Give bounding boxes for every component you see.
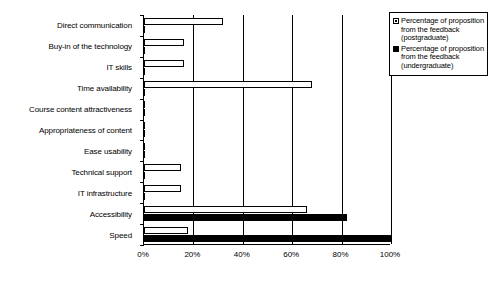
legend-item-postgraduate: Percentage of proposition from the feedb… xyxy=(393,17,484,43)
x-axis-tick-label: 20% xyxy=(184,250,200,260)
y-axis-label: IT infrastructure xyxy=(78,188,132,197)
bar-postgraduate xyxy=(144,101,145,108)
y-axis-label: Buy-in of the technology xyxy=(49,42,132,51)
bar-undergraduate xyxy=(144,26,145,33)
x-axis-tick-label: 80% xyxy=(333,250,349,260)
bar-row xyxy=(144,99,390,120)
bar-postgraduate xyxy=(144,164,181,171)
bar-row xyxy=(144,57,390,78)
bar-postgraduate xyxy=(144,39,184,46)
black-square-icon xyxy=(393,46,399,52)
x-axis-tick-labels: 0%20%40%60%80%100% xyxy=(0,250,497,264)
legend-item-undergraduate: Percentage of proposition from the feedb… xyxy=(393,45,484,71)
bar-postgraduate xyxy=(144,206,307,213)
bar-undergraduate xyxy=(144,235,391,242)
bar-postgraduate xyxy=(144,81,312,88)
y-axis-label: IT skills xyxy=(106,63,132,72)
white-square-icon xyxy=(393,18,399,24)
bar-postgraduate xyxy=(144,227,188,234)
bar-undergraduate xyxy=(144,214,347,221)
bar-row xyxy=(144,140,390,161)
bar-row xyxy=(144,182,390,203)
bar-undergraduate xyxy=(144,89,145,96)
bar-undergraduate xyxy=(144,109,145,116)
bar-undergraduate xyxy=(144,172,145,179)
bar-undergraduate xyxy=(144,193,145,200)
bar-undergraduate xyxy=(144,68,145,75)
chart-legend: Percentage of proposition from the feedb… xyxy=(389,12,488,76)
legend-item-label: Percentage of proposition from the feedb… xyxy=(401,17,484,43)
bar-undergraduate xyxy=(144,151,145,158)
y-axis-label: Ease usability xyxy=(84,146,132,155)
bar-postgraduate xyxy=(144,122,145,129)
y-axis-label: Accessibility xyxy=(90,209,132,218)
bar-row xyxy=(144,203,390,224)
y-axis-label: Appropriateness of content xyxy=(39,126,132,135)
x-axis-tick-label: 60% xyxy=(283,250,299,260)
x-axis-tick-label: 100% xyxy=(380,250,400,260)
bar-row xyxy=(144,224,390,245)
y-axis-tick xyxy=(140,245,144,246)
bar-chart: Direct communicationBuy-in of the techno… xyxy=(0,0,497,285)
bar-postgraduate xyxy=(144,185,181,192)
bar-row xyxy=(144,78,390,99)
bar-undergraduate xyxy=(144,130,145,137)
y-axis-label: Time availability xyxy=(77,84,132,93)
y-axis-label: Direct communication xyxy=(57,21,132,30)
bar-postgraduate xyxy=(144,60,184,67)
legend-item-label: Percentage of proposition from the feedb… xyxy=(401,45,484,71)
y-axis-label: Technical support xyxy=(71,167,132,176)
bar-row xyxy=(144,15,390,36)
bar-series-container xyxy=(144,15,390,244)
bar-row xyxy=(144,120,390,141)
bar-undergraduate xyxy=(144,47,145,54)
bar-row xyxy=(144,161,390,182)
bar-row xyxy=(144,36,390,57)
bar-postgraduate xyxy=(144,18,223,25)
y-axis-category-labels: Direct communicationBuy-in of the techno… xyxy=(0,15,138,245)
bar-postgraduate xyxy=(144,143,145,150)
x-axis-tick-label: 40% xyxy=(234,250,250,260)
x-axis-tick-label: 0% xyxy=(137,250,149,260)
y-axis-label: Course content attractiveness xyxy=(29,105,132,114)
y-axis-label: Speed xyxy=(109,230,132,239)
plot-area xyxy=(143,15,390,245)
